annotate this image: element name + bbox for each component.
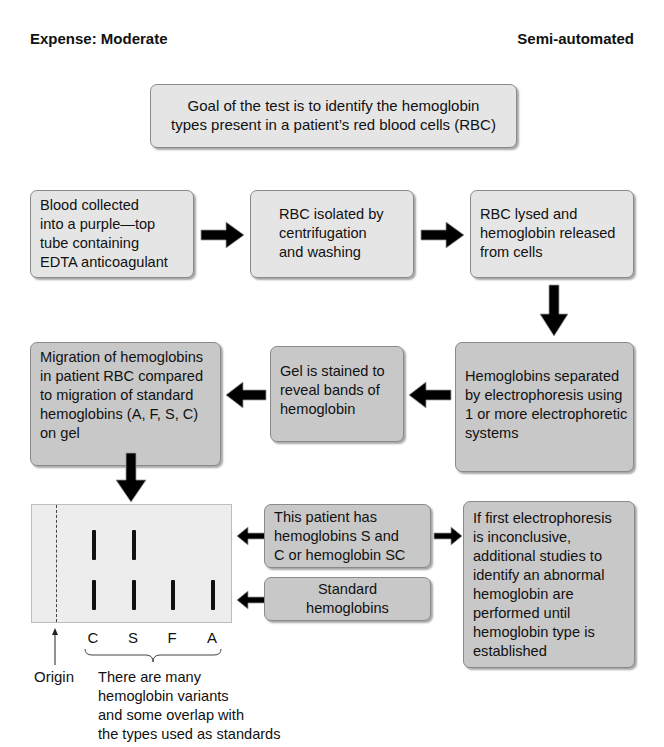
annotation-text: hemoglobins (274, 599, 421, 618)
origin-label: Origin (34, 667, 74, 686)
step-text: Migration of hemoglobins (40, 348, 211, 367)
step-text: from cells (480, 243, 624, 262)
annotation-text: C or hemoglobin SC (274, 546, 421, 565)
step-text: hemoglobin released (480, 224, 624, 243)
caption-line: hemoglobin variants (98, 687, 281, 706)
step-isolate-box: RBC isolated by centrifugation and washi… (250, 190, 414, 278)
step-lyse-box: RBC lysed and hemoglobin released from c… (470, 190, 634, 278)
variants-caption: There are many hemoglobin variants and s… (98, 668, 281, 744)
annotation-text: Standard (274, 580, 421, 599)
step-text: reveal bands of (280, 381, 394, 400)
arrow-left-icon (225, 380, 267, 410)
standard-band-c (92, 580, 96, 610)
lane-label-s: S (123, 629, 143, 646)
annotation-text: hemoglobins S and (274, 527, 421, 546)
step-text: on gel (40, 424, 211, 443)
patient-band-s (132, 530, 136, 560)
goal-line: Goal of the test is to identify the hemo… (160, 96, 507, 115)
expense-label: Expense: Moderate (30, 30, 168, 47)
caption-line: There are many (98, 668, 281, 687)
step-text: Blood collected (40, 196, 184, 215)
step-text: and washing (279, 243, 404, 262)
patient-band-c (92, 530, 96, 560)
step-collect-box: Blood collected into a purple—top tube c… (30, 190, 194, 278)
arrow-left-icon (408, 380, 452, 410)
arrow-right-icon (420, 220, 466, 250)
goal-line: types present in a patient’s red blood c… (160, 115, 507, 134)
caption-line: and some overlap with (98, 706, 281, 725)
standard-band-a (211, 580, 215, 610)
annotation-text: This patient has (274, 508, 421, 527)
step-compare-box: Migration of hemoglobins in patient RBC … (30, 342, 221, 466)
step-text: 1 or more electrophoretic (465, 405, 624, 424)
step-text: systems (465, 424, 624, 443)
step-text: RBC lysed and (480, 205, 624, 224)
annotation-text: additional studies to (473, 547, 625, 566)
annotation-text: identify an abnormal (473, 566, 625, 585)
arrow-left-icon (236, 526, 266, 546)
step-stain-box: Gel is stained to reveal bands of hemogl… (270, 346, 404, 442)
annotation-text: If first electrophoresis (473, 509, 625, 528)
step-text: RBC isolated by (279, 205, 404, 224)
standard-hemoglobins-box: Standard hemoglobins (264, 577, 431, 621)
step-text: by electrophoresis using (465, 386, 624, 405)
arrow-left-icon (236, 590, 266, 610)
lane-brace-icon (84, 648, 222, 664)
step-text: Gel is stained to (280, 362, 394, 381)
lane-label-f: F (162, 629, 182, 646)
goal-box: Goal of the test is to identify the hemo… (150, 84, 517, 148)
arrow-right-icon (433, 526, 463, 546)
origin-pointer-icon (50, 628, 60, 666)
step-text: centrifugation (279, 224, 404, 243)
step-text: in patient RBC compared (40, 367, 211, 386)
followup-box: If first electrophoresis is inconclusive… (463, 501, 635, 668)
step-text: Hemoglobins separated (465, 367, 624, 386)
electrophoresis-gel (31, 504, 232, 623)
patient-result-box: This patient has hemoglobins S and C or … (264, 504, 431, 568)
annotation-text: hemoglobin type is (473, 623, 625, 642)
step-text: hemoglobin (280, 400, 394, 419)
standard-band-s (132, 580, 136, 610)
step-text: tube containing (40, 234, 184, 253)
caption-line: the types used as standards (98, 725, 281, 744)
origin-line (56, 505, 57, 622)
lane-label-a: A (202, 629, 222, 646)
step-separate-box: Hemoglobins separated by electrophoresis… (455, 342, 634, 472)
step-text: to migration of standard (40, 386, 211, 405)
annotation-text: performed until (473, 604, 625, 623)
annotation-text: is inconclusive, (473, 528, 625, 547)
arrow-down-icon (114, 452, 148, 504)
step-text: EDTA anticoagulant (40, 253, 184, 272)
step-text: hemoglobins (A, F, S, C) (40, 405, 211, 424)
arrow-right-icon (200, 220, 246, 250)
automation-label: Semi-automated (517, 30, 634, 47)
annotation-text: hemoglobin are (473, 585, 625, 604)
annotation-text: established (473, 642, 625, 661)
arrow-down-icon (538, 284, 570, 338)
step-text: into a purple—top (40, 215, 184, 234)
lane-label-c: C (83, 629, 103, 646)
standard-band-f (171, 580, 175, 610)
